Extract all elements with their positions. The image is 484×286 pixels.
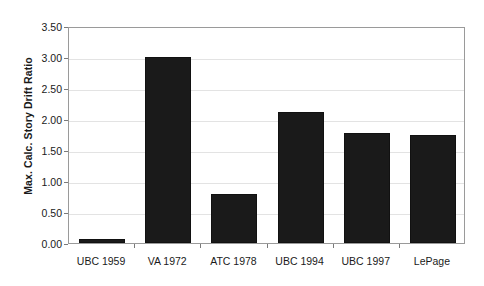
x-tick-label: VA 1972 xyxy=(148,255,187,267)
x-tick-label: LePage xyxy=(414,255,450,267)
y-tick-mark xyxy=(64,244,68,245)
x-tick-label: UBC 1994 xyxy=(275,255,323,267)
x-tick-label: UBC 1997 xyxy=(342,255,390,267)
plot-area xyxy=(68,27,465,244)
x-tick-mark xyxy=(333,244,334,248)
y-axis-title: Max. Calc. Story Drift Ratio xyxy=(22,16,34,236)
y-tick-label: 1.50 xyxy=(18,145,62,157)
y-tick-mark xyxy=(64,182,68,183)
x-tick-label: ATC 1978 xyxy=(210,255,257,267)
y-tick-label: 0.00 xyxy=(18,238,62,250)
y-tick-mark xyxy=(64,58,68,59)
y-tick-mark xyxy=(64,120,68,121)
y-tick-label: 3.50 xyxy=(18,21,62,33)
y-tick-label: 0.50 xyxy=(18,207,62,219)
x-tick-mark xyxy=(200,244,201,248)
bar-slot xyxy=(201,28,267,243)
y-tick-mark xyxy=(64,27,68,28)
x-tick-mark xyxy=(134,244,135,248)
y-tick-mark xyxy=(64,213,68,214)
y-tick-label: 2.50 xyxy=(18,83,62,95)
y-tick-label: 2.00 xyxy=(18,114,62,126)
bar-chart: Max. Calc. Story Drift Ratio 0.000.501.0… xyxy=(0,0,484,286)
bar-slot xyxy=(268,28,334,243)
bar xyxy=(410,135,456,243)
bar xyxy=(278,112,324,243)
y-tick-mark xyxy=(64,89,68,90)
bar-slot xyxy=(69,28,135,243)
y-tick-label: 3.00 xyxy=(18,52,62,64)
y-tick-label: 1.00 xyxy=(18,176,62,188)
bars-group xyxy=(69,28,464,243)
x-tick-label: UBC 1959 xyxy=(77,255,125,267)
x-tick-mark xyxy=(399,244,400,248)
bar xyxy=(344,133,390,243)
y-tick-mark xyxy=(64,151,68,152)
bar xyxy=(79,239,125,243)
bar-slot xyxy=(135,28,201,243)
bar xyxy=(211,194,257,243)
bar-slot xyxy=(400,28,466,243)
bar xyxy=(145,57,191,243)
bar-slot xyxy=(334,28,400,243)
x-tick-mark xyxy=(267,244,268,248)
